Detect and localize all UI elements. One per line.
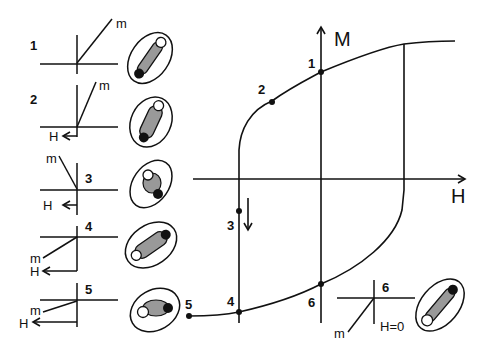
state-4: 4 m H: [30, 213, 185, 279]
point-5-label: 5: [185, 297, 192, 312]
h-label: H: [30, 264, 39, 279]
domain-ellipse-1: [118, 24, 181, 92]
curve-point-labels: 1 2 3 4 5 6: [185, 56, 315, 312]
m-label: m: [30, 303, 41, 318]
point-1: [318, 69, 324, 75]
m-label: m: [46, 151, 57, 166]
point-3: [236, 208, 242, 214]
domain-ellipse-4: [117, 213, 186, 278]
point-5: [186, 313, 192, 319]
domain-ellipse-2: [122, 90, 180, 154]
m-vector: [59, 156, 77, 189]
m-vector: [77, 82, 96, 127]
m-vector: [77, 19, 112, 63]
point-6-label: 6: [308, 295, 315, 310]
h-label: H: [43, 198, 52, 213]
curve-points: [186, 69, 324, 319]
state-1-label: 1: [30, 38, 37, 53]
state-2-label: 2: [30, 92, 37, 107]
point-2: [269, 99, 275, 105]
domain-ellipse-6: [406, 270, 474, 340]
h-axis-label: H: [451, 185, 465, 207]
state-5: 5 m H: [19, 280, 188, 341]
lower-branch: [189, 190, 404, 316]
point-1-label: 1: [308, 56, 315, 71]
state-6-label: 6: [382, 280, 389, 295]
h-label: H: [19, 316, 28, 331]
m-label: m: [99, 78, 110, 93]
point-6: [318, 281, 324, 287]
m-vector: [43, 237, 77, 258]
state-4-label: 4: [85, 219, 93, 234]
point-4: [236, 309, 242, 315]
domain-core-3: [143, 170, 163, 199]
main-axes: M H: [193, 27, 465, 323]
state-3: 3 m H: [40, 151, 181, 216]
h-label: H: [49, 129, 58, 144]
m-vector: [43, 301, 77, 312]
state-3-label: 3: [85, 171, 92, 186]
m-axis-label: M: [334, 28, 351, 50]
m-vector: [348, 298, 374, 332]
m-label: m: [116, 16, 127, 31]
hysteresis-loop: [189, 41, 455, 323]
domain-core-5: [138, 300, 174, 318]
upper-branch: [239, 41, 455, 323]
point-4-label: 4: [227, 294, 235, 309]
point-3-label: 3: [227, 218, 234, 233]
state-6: 6 m H=0: [334, 270, 474, 341]
state-2: 2 m H: [30, 78, 180, 154]
hysteresis-diagram: M H 1 2 3 4 5 6 1 m: [0, 0, 489, 354]
m-label: m: [334, 326, 345, 341]
state-5-label: 5: [85, 282, 92, 297]
point-2-label: 2: [258, 82, 265, 97]
h-label: H=0: [380, 319, 404, 334]
